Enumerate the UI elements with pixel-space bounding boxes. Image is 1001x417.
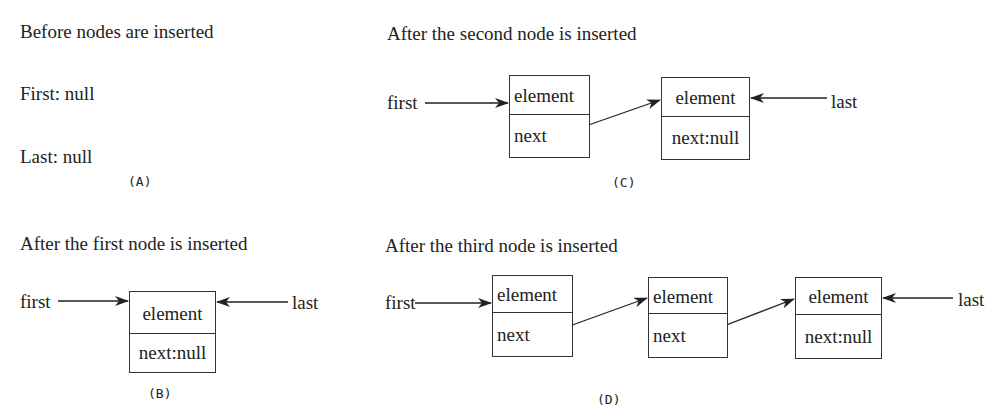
node-next: next:null: [662, 116, 749, 159]
panel-caption: (B): [148, 387, 171, 400]
first-label: first: [385, 293, 416, 312]
last-null-text: Last: null: [20, 147, 92, 166]
panel-caption: (C): [612, 176, 635, 189]
last-label: last: [958, 290, 984, 309]
panel-caption: (A): [128, 175, 151, 188]
first-label: first: [387, 93, 418, 112]
list-node: element next: [492, 275, 573, 357]
node-element: element: [796, 278, 881, 316]
last-label: last: [831, 92, 857, 111]
node-element: element: [493, 276, 572, 314]
node-element: element: [662, 78, 749, 118]
list-node: element next: [509, 75, 590, 158]
node-element: element: [130, 292, 215, 335]
list-node: element next:null: [795, 277, 882, 359]
panel-title: After the third node is inserted: [385, 236, 618, 255]
first-null-text: First: null: [20, 84, 94, 103]
list-node: element next:null: [661, 77, 750, 160]
node-next: next:null: [130, 333, 215, 372]
panel-title: Before nodes are inserted: [20, 22, 214, 41]
list-node: element next: [648, 277, 728, 358]
list-node: element next:null: [129, 291, 216, 373]
panel-caption: (D): [597, 393, 620, 406]
panel-title: After the first node is inserted: [20, 234, 247, 253]
last-label: last: [292, 293, 318, 312]
panel-title: After the second node is inserted: [387, 24, 637, 43]
node-element: element: [649, 278, 727, 315]
node-next: next: [493, 312, 572, 356]
node-element: element: [510, 76, 589, 116]
node-next: next: [649, 313, 727, 357]
node-next: next: [510, 114, 589, 157]
node-next: next:null: [796, 314, 881, 358]
first-label: first: [20, 292, 51, 311]
